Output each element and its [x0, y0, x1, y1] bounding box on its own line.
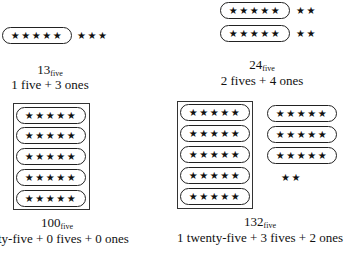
stars: ★★★★★ [229, 6, 281, 16]
numeral-label: 132five [225, 215, 295, 230]
place-value-description: 1 twenty-five + 3 fives + 2 ones [172, 231, 347, 244]
group-of-five: ★★★★★ [2, 27, 72, 44]
group-of-five: ★★★★★ [180, 188, 250, 205]
stars: ★★★★★ [25, 173, 77, 183]
numeral-base: five [262, 64, 274, 73]
group-of-five: ★★★★★ [180, 167, 250, 184]
ones-stars: ★★ [296, 6, 317, 16]
group-of-five: ★★★★★ [180, 104, 250, 121]
stars: ★★★★★ [276, 109, 328, 119]
stars: ★★★★★ [229, 29, 281, 39]
numeral-base: five [61, 222, 73, 231]
numeral-label: 100five [22, 216, 92, 231]
stars: ★★★★★ [25, 152, 77, 162]
group-of-five: ★★★★★ [16, 169, 86, 186]
place-value-description: 1 five + 3 ones [0, 78, 100, 91]
place-value-description: ty-five + 0 fives + 0 ones [0, 232, 129, 245]
group-of-five: ★★★★★ [16, 148, 86, 165]
group-of-five: ★★★★★ [16, 127, 86, 144]
numeral-label: 24five [232, 58, 292, 73]
ones-stars: ★★ [296, 29, 317, 39]
group-of-five: ★★★★★ [220, 2, 290, 19]
stars: ★★★★★ [276, 151, 328, 161]
group-of-five: ★★★★★ [267, 126, 337, 143]
group-of-five: ★★★★★ [16, 190, 86, 207]
stars: ★★★★★ [189, 108, 241, 118]
group-of-five: ★★★★★ [16, 107, 86, 124]
group-of-five: ★★★★★ [267, 105, 337, 122]
stars: ★★★★★ [189, 129, 241, 139]
stars: ★★★★★ [11, 31, 63, 41]
numeral-value: 100 [41, 215, 61, 230]
ones-stars: ★★★ [77, 31, 108, 41]
ones-stars: ★★ [281, 173, 302, 183]
numeral-base: five [264, 221, 276, 230]
stars: ★★★★★ [25, 111, 77, 121]
numeral-value: 132 [244, 214, 264, 229]
stars: ★★★★★ [189, 192, 241, 202]
numeral-value: 24 [249, 57, 262, 72]
group-of-five: ★★★★★ [180, 146, 250, 163]
group-of-five: ★★★★★ [220, 25, 290, 42]
stars: ★★★★★ [189, 171, 241, 181]
group-of-five: ★★★★★ [180, 125, 250, 142]
numeral-label: 13five [20, 63, 80, 78]
stars: ★★★★★ [25, 131, 77, 141]
group-of-five: ★★★★★ [267, 147, 337, 164]
stars: ★★★★★ [25, 194, 77, 204]
numeral-value: 13 [37, 62, 50, 77]
place-value-description: 2 fives + 4 ones [212, 74, 312, 87]
stars: ★★★★★ [276, 130, 328, 140]
stars: ★★★★★ [189, 150, 241, 160]
